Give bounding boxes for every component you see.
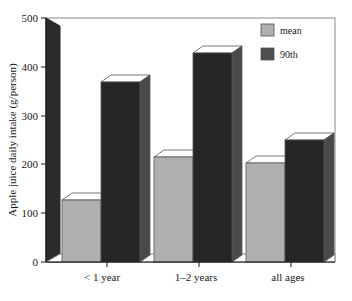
y-tick-label-5: 500	[22, 12, 39, 24]
bar-front-face	[101, 82, 140, 262]
chart-canvas: 0 100 200 300 400 500 Apple juice daily …	[0, 0, 352, 301]
y-tick-label-0: 0	[33, 256, 39, 268]
bar-p90-group-0[interactable]	[101, 75, 150, 262]
y-tick-label-2: 200	[22, 158, 39, 170]
bar-front-face	[62, 200, 101, 262]
legend-swatch-90th	[261, 48, 274, 60]
legend-label-90th: 90th	[280, 49, 298, 60]
bar-p90-group-1[interactable]	[193, 46, 242, 262]
x-category-label-0: < 1 year	[84, 271, 120, 283]
back-wall-left	[46, 18, 60, 262]
legend-label-mean: mean	[280, 25, 302, 36]
bar-front-face	[246, 163, 285, 262]
bar-front-face	[154, 157, 193, 262]
y-axis-title: Apple juice daily intake (g/person)	[6, 63, 19, 217]
y-tick-label-3: 300	[22, 110, 39, 122]
x-category-label-1: 1–2 years	[175, 271, 217, 283]
x-category-label-2: all ages	[271, 271, 304, 283]
bar-chart: 0 100 200 300 400 500 Apple juice daily …	[0, 0, 352, 301]
y-tick-label-4: 400	[22, 61, 39, 73]
bar-side-face	[232, 46, 242, 262]
y-tick-label-1: 100	[22, 207, 39, 219]
legend-swatch-mean	[261, 24, 274, 36]
bar-p90-group-2[interactable]	[285, 133, 334, 262]
bar-side-face	[324, 133, 334, 262]
bar-front-face	[193, 53, 232, 262]
bar-side-face	[140, 75, 150, 262]
bar-front-face	[285, 140, 324, 262]
